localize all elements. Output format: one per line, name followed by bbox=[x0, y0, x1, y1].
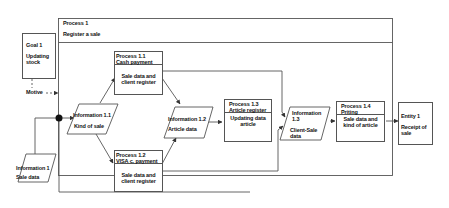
junction-dot bbox=[56, 115, 63, 122]
entity-1-title: Entity 1 bbox=[401, 113, 420, 120]
entity-1-body-line2: sale bbox=[401, 130, 411, 137]
process-1-1-body-line2: client register bbox=[115, 79, 162, 86]
process-1-3-box[interactable]: Process 1.3 Article register Updating da… bbox=[224, 99, 272, 142]
information-1-body: Sale data bbox=[16, 174, 39, 181]
process-1-2-body-line2: client register bbox=[115, 178, 162, 185]
goal-1-title: Goal 1 bbox=[26, 42, 42, 49]
process-1-2-box[interactable]: Process 1.2 VISA c. payment Sale data an… bbox=[114, 150, 163, 192]
process-1-title: Process 1 bbox=[63, 20, 88, 27]
information-1-2-title: Information 1.2 bbox=[168, 116, 206, 123]
process-1-3-body-line2: article bbox=[225, 121, 271, 128]
process-1-4-subtitle: Priting bbox=[341, 109, 358, 116]
process-1-subtitle: Register a sale bbox=[63, 31, 100, 38]
process-1-1-subtitle: Cash payment bbox=[116, 59, 152, 66]
information-1-3-title-line2: 1.3 bbox=[292, 116, 299, 123]
information-1-2-body: Article data bbox=[168, 126, 197, 133]
process-1-2-subtitle: VISA c. payment bbox=[116, 158, 157, 165]
information-1-1-body: Kind of sale bbox=[74, 123, 104, 130]
motive-label: Motive bbox=[26, 89, 43, 96]
process-1-1-box[interactable]: Process 1.1 Cash payment Sale data and c… bbox=[114, 51, 163, 95]
process-1-3-subtitle: Article register bbox=[229, 107, 266, 114]
process-1-4-box[interactable]: Process 1.4 Priting Sale data and kind o… bbox=[336, 101, 385, 142]
information-1-3-body-line2: data bbox=[290, 133, 301, 140]
goal-1-body-line2: stock bbox=[26, 59, 40, 66]
information-1-1-title: Information 1.1 bbox=[73, 112, 111, 119]
process-1-4-body-line2: kind of article bbox=[337, 122, 384, 129]
information-1-title: Information 1 bbox=[16, 165, 50, 172]
goal-1-box[interactable]: Goal 1 Updating stock bbox=[22, 33, 56, 79]
entity-1-box[interactable]: Entity 1 Receipt of sale bbox=[398, 102, 433, 145]
